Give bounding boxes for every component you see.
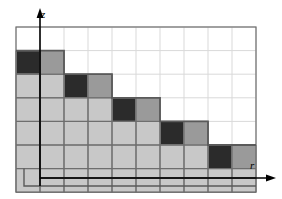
grid-cell-empty	[64, 27, 88, 51]
grid-cell-light	[88, 145, 112, 169]
grid-cell-dark	[16, 51, 40, 75]
grid-cell-light	[64, 145, 88, 169]
grid-cell-empty	[136, 74, 160, 98]
grid-cell-empty	[112, 51, 136, 75]
grid-cell-empty	[232, 74, 256, 98]
grid-cell-empty	[160, 27, 184, 51]
grid-cell-medium	[40, 51, 64, 75]
grid-cell-light	[160, 145, 184, 169]
grid-cell-light	[112, 169, 136, 193]
grid-cell-medium	[88, 74, 112, 98]
axis-label-r: r	[250, 160, 254, 171]
grid-cell-light	[16, 98, 40, 122]
grid-cell-light	[16, 145, 40, 169]
grid-cell-empty	[208, 74, 232, 98]
grid-cell-light	[16, 121, 40, 145]
grid-cell-empty	[160, 74, 184, 98]
grid-cell-empty	[16, 27, 40, 51]
grid-cell-empty	[232, 98, 256, 122]
grid-cell-light	[184, 169, 208, 193]
grid-cell-empty	[184, 98, 208, 122]
grid-cell-empty	[208, 51, 232, 75]
grid-cell-light	[184, 145, 208, 169]
grid-cell-light	[64, 121, 88, 145]
grid-cell-light	[232, 169, 256, 193]
grid-cell-empty	[160, 51, 184, 75]
grid-cell-light	[16, 169, 40, 193]
staircase-grid-figure	[0, 0, 282, 199]
grid-cell-light	[112, 121, 136, 145]
grid-cell-empty	[184, 74, 208, 98]
grid-cell-empty	[40, 27, 64, 51]
grid-cell-light	[112, 145, 136, 169]
axis-label-z: z	[41, 9, 45, 20]
grid-cell-light	[64, 98, 88, 122]
grid-cell-empty	[232, 27, 256, 51]
grid-cell-light	[40, 145, 64, 169]
grid-cell-empty	[88, 27, 112, 51]
grid-cell-dark	[112, 98, 136, 122]
grid-cell-light	[136, 169, 160, 193]
grid-cell-medium	[136, 98, 160, 122]
grid-cell-light	[88, 98, 112, 122]
grid-cell-light	[208, 169, 232, 193]
grid-cell-medium	[184, 121, 208, 145]
grid-cell-empty	[112, 27, 136, 51]
grid-cell-empty	[136, 27, 160, 51]
grid-cell-dark	[160, 121, 184, 145]
grid-cell-light	[16, 74, 40, 98]
grid-cell-light	[160, 169, 184, 193]
grid-cell-light	[64, 169, 88, 193]
grid-cell-empty	[64, 51, 88, 75]
grid-cell-empty	[88, 51, 112, 75]
grid-cell-dark	[208, 145, 232, 169]
grid-cell-light	[88, 121, 112, 145]
grid-cell-empty	[160, 98, 184, 122]
grid-cell-light	[40, 98, 64, 122]
grid-cell-light	[40, 121, 64, 145]
grid-cell-light	[40, 169, 64, 193]
grid-cell-empty	[208, 121, 232, 145]
grid-cell-empty	[208, 98, 232, 122]
grid-cell-light	[136, 121, 160, 145]
grid-cell-light	[136, 145, 160, 169]
grid-cell-empty	[136, 51, 160, 75]
grid-cell-empty	[208, 27, 232, 51]
grid-cell-dark	[64, 74, 88, 98]
grid-cell-empty	[184, 27, 208, 51]
grid-cell-empty	[112, 74, 136, 98]
grid-cell-empty	[184, 51, 208, 75]
grid-cell-empty	[232, 121, 256, 145]
grid-cell-empty	[232, 51, 256, 75]
grid-cell-light	[88, 169, 112, 193]
grid-cell-light	[40, 74, 64, 98]
